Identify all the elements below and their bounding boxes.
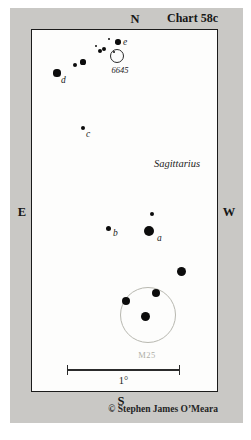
- constellation-label: Sagittarius: [149, 159, 205, 170]
- star-d: [53, 69, 60, 76]
- copyright-text: © Stephen James O’Meara: [30, 404, 218, 415]
- star: [122, 297, 130, 305]
- star-label-c: c: [86, 130, 90, 140]
- star-a: [144, 226, 154, 236]
- star-label-a: a: [157, 234, 162, 244]
- star-label-d: d: [61, 76, 66, 86]
- star-b: [106, 226, 111, 231]
- cluster-label-ngc6645: 6645: [112, 66, 129, 75]
- star: [177, 267, 186, 276]
- star-label-e: e: [123, 38, 127, 48]
- star-e: [115, 39, 120, 44]
- scale-bar-line: [68, 369, 179, 370]
- scale-bar: [67, 365, 180, 375]
- scale-bar-label: 1°: [67, 376, 180, 387]
- star: [141, 312, 150, 321]
- star-c: [81, 126, 85, 130]
- cluster-label-m25: M25: [138, 351, 156, 360]
- star: [95, 45, 97, 47]
- star: [102, 47, 107, 52]
- star: [152, 289, 160, 297]
- star: [73, 63, 77, 67]
- star: [80, 59, 85, 64]
- sky-objects-layer: Sagittarius 1° 6645M25decba: [0, 0, 251, 440]
- star: [108, 38, 110, 40]
- star: [150, 212, 154, 216]
- star-label-b: b: [113, 229, 118, 239]
